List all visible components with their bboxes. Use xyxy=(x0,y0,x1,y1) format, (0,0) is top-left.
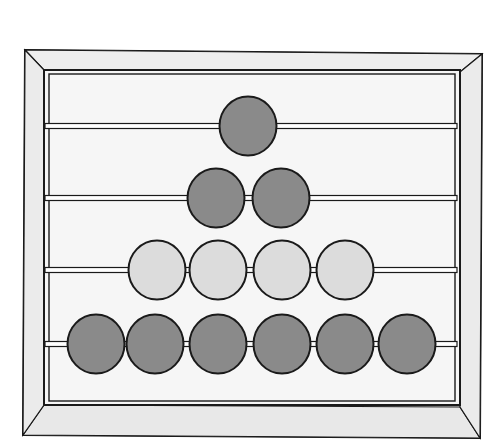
frame-left-bevel xyxy=(23,50,44,435)
rod-2 xyxy=(45,196,457,201)
bead-row3-3 xyxy=(254,241,311,300)
bead-row4-2 xyxy=(127,315,184,374)
abacus-illustration xyxy=(0,0,489,443)
bead-row3-4 xyxy=(317,241,374,300)
bead-row1-1 xyxy=(220,97,277,156)
bead-row4-3 xyxy=(190,315,247,374)
bead-row2-1 xyxy=(188,169,245,228)
frame-top-bevel xyxy=(25,50,482,72)
bead-row2-2 xyxy=(253,169,310,228)
bead-row4-1 xyxy=(68,315,125,374)
bead-row4-4 xyxy=(254,315,311,374)
bead-row4-5 xyxy=(317,315,374,374)
rod-3 xyxy=(45,268,457,273)
frame-right-bevel xyxy=(460,54,482,438)
bead-row3-1 xyxy=(129,241,186,300)
bead-row3-2 xyxy=(190,241,247,300)
bead-row4-6 xyxy=(379,315,436,374)
frame-bottom-bevel xyxy=(23,405,480,438)
